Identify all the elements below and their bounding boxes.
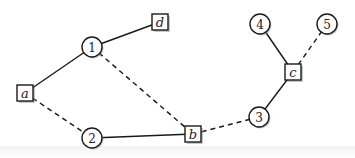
node-label: 3 [255, 111, 263, 125]
node-label: 2 [88, 132, 96, 146]
node-b: b [185, 126, 203, 144]
node-label: a [21, 86, 29, 101]
edge-a-2 [25, 93, 92, 138]
edge-1-d [92, 22, 160, 47]
node-4: 4 [250, 14, 272, 36]
edge-1-b [92, 47, 193, 134]
node-2: 2 [82, 128, 104, 150]
node-label: 5 [323, 18, 331, 32]
graph-diagram: a1d2b3c45 [0, 0, 355, 158]
edge-2-b [92, 134, 193, 138]
node-label: b [189, 127, 197, 142]
nodes-layer: a1d2b3c45 [17, 14, 339, 150]
node-a: a [17, 85, 35, 103]
node-label: d [156, 15, 164, 30]
edges-layer [25, 22, 327, 138]
node-d: d [152, 14, 170, 32]
node-5: 5 [317, 14, 339, 36]
node-3: 3 [249, 107, 271, 129]
edge-a-1 [25, 47, 92, 93]
node-label: c [289, 65, 297, 80]
node-label: 1 [88, 41, 96, 55]
node-c: c [285, 64, 303, 82]
node-1: 1 [82, 37, 104, 59]
node-label: 4 [256, 18, 264, 32]
